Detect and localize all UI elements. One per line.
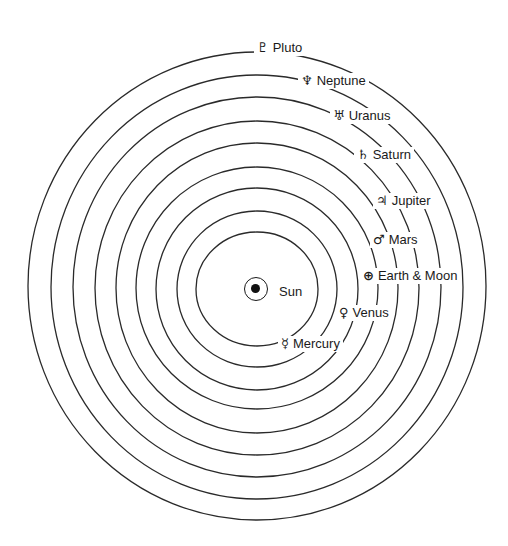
planet-label-venus: ♀ Venus	[336, 305, 392, 321]
planet-name: Saturn	[373, 147, 411, 163]
planet-name: Pluto	[273, 40, 303, 56]
planet-label-pluto: ♇ Pluto	[254, 40, 305, 56]
neptune-icon: ♆	[301, 73, 313, 89]
earth-icon: ⊕	[363, 268, 374, 284]
planet-label-mercury: ☿ Mercury	[278, 336, 343, 352]
pluto-icon: ♇	[257, 40, 269, 56]
planet-label-jupiter: ♃ Jupiter	[373, 193, 434, 209]
planet-name: Neptune	[317, 73, 366, 89]
planet-label-uranus: ♅ Uranus	[330, 108, 394, 124]
uranus-icon: ♅	[333, 108, 345, 124]
mars-icon: ♂	[373, 232, 385, 248]
planet-label-mars: ♂ Mars	[370, 232, 421, 248]
mercury-icon: ☿	[281, 336, 289, 352]
planet-name: Uranus	[349, 108, 391, 124]
venus-icon: ♀	[339, 305, 349, 321]
jupiter-icon: ♃	[376, 193, 388, 209]
planet-name: Venus	[353, 305, 389, 321]
planet-name: Mercury	[293, 336, 340, 352]
sun-label: Sun	[279, 284, 302, 299]
planet-name: Jupiter	[392, 193, 431, 209]
planet-label-saturn: ♄ Saturn	[354, 147, 414, 163]
planet-name: Earth & Moon	[378, 268, 458, 284]
sun-icon	[244, 277, 268, 301]
planet-name: Mars	[389, 232, 418, 248]
planet-label-neptune: ♆ Neptune	[298, 73, 369, 89]
saturn-icon: ♄	[357, 147, 369, 163]
planet-label-earth-moon: ⊕ Earth & Moon	[360, 268, 460, 284]
